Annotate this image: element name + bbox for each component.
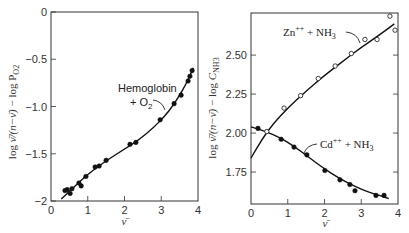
chart-figure: 012340−0.5−1.0−1.5−2 Hemoglobin + O2 log… [0,0,409,233]
y-tick-label: −1.0 [25,101,47,113]
x-tick-label: 3 [158,204,164,216]
data-point [375,37,379,41]
data-point [323,168,328,173]
data-point [363,37,367,41]
data-point [382,193,387,198]
annotation-zn: Zn++ + NH3 [283,24,336,41]
annotation-arrow [153,100,165,110]
data-point [188,74,193,79]
x-tick-label: 4 [195,204,201,216]
data-point [104,158,109,163]
annotation-cd: Cd++ + NH3 [320,136,373,153]
data-point [316,76,320,80]
x-tick-label: 1 [85,204,91,216]
data-point [305,153,310,158]
y-axis-label-left: log ν̄/(n−ν̄) − log PO2 [6,65,21,159]
y-axis-label-right: log ν̄/(n−ν̄) − log CNH3 [206,57,221,158]
y-tick-label: 2.50 [226,49,247,61]
data-point [84,174,89,179]
data-point [158,117,163,122]
x-tick-label: 1 [285,207,291,219]
data-point [134,140,139,145]
data-point [353,188,358,193]
y-tick-label: −1.5 [25,148,47,160]
data-point [298,93,302,97]
y-tick-label: −0.5 [25,53,47,65]
y-tick-label: 2.25 [226,88,247,100]
x-tick-label: 4 [395,207,401,219]
data-point [256,126,261,131]
data-point [338,178,343,183]
annotation-arrow-zn [346,32,360,43]
data-point [265,129,269,133]
data-point [393,28,397,32]
data-point [374,193,379,198]
data-point [190,68,195,73]
data-point [333,64,337,68]
data-point [292,145,297,150]
hemoglobin-chart: 012340−0.5−1.0−1.5−2 Hemoglobin + O2 log… [6,6,201,227]
data-point [349,51,353,55]
plot-frame [51,12,198,201]
data-point [348,182,353,187]
x-axis-label-left: ν̄ [122,215,130,227]
y-tick-label: −2 [34,195,47,207]
x-tick-label: 3 [358,207,364,219]
data-point [279,137,284,142]
y-tick-label: 0 [41,6,47,18]
zn-cd-chart: 012342.502.252.001.75 Zn++ + NH3 Cd++ + … [206,13,401,229]
data-point [186,79,191,84]
data-point [388,14,392,18]
y-tick-label: 2.00 [226,127,247,139]
data-point [68,191,73,196]
x-axis-label-right: ν̄ [323,217,331,229]
data-point [79,184,84,189]
x-tick-label: 0 [248,207,254,219]
data-point [179,93,184,98]
axes: 012340−0.5−1.0−1.5−2 [25,6,201,216]
annotation-plus-o2: + O2 [130,96,153,111]
data-point [70,186,75,191]
data-point [172,101,177,106]
data-point [97,164,102,169]
annotation-arrow-cd [304,144,317,153]
data-point [282,106,286,110]
data-point [128,142,133,147]
x-tick-label: 0 [48,204,54,216]
y-tick-label: 1.75 [226,166,247,178]
data-points [256,14,398,198]
annotation-hemoglobin: Hemoglobin [118,82,177,94]
